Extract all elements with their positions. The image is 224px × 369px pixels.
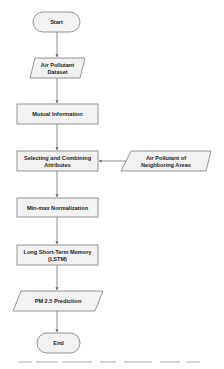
node-selecting-combining: Selecting and Combining Attributes xyxy=(17,151,98,171)
node-dataset: Air Pollutant Dataset xyxy=(30,58,85,78)
node-pm25-label: PM 2.5 Prediction xyxy=(35,298,82,304)
node-select-line2: Attributes xyxy=(44,162,70,168)
node-dataset-line1: Air Pollutant xyxy=(41,62,74,68)
node-pm25-prediction: PM 2.5 Prediction xyxy=(13,291,103,311)
cropped-caption xyxy=(18,361,200,363)
node-neighbor-line1: Air Pollutant of xyxy=(146,155,186,161)
node-neighbor-line2: Neighboring Areas xyxy=(141,162,191,168)
node-start-label: Start xyxy=(50,19,63,25)
node-dataset-line2: Dataset xyxy=(47,69,67,75)
node-mutual-label: Mutual Information xyxy=(32,111,83,117)
node-lstm: Long Short-Term Memory (LSTM) xyxy=(17,245,98,265)
flowchart: Start Air Pollutant Dataset Mutual Infor… xyxy=(0,0,224,369)
node-lstm-line2: (LSTM) xyxy=(48,256,67,262)
node-start: Start xyxy=(33,12,80,32)
node-lstm-line1: Long Short-Term Memory xyxy=(24,249,93,255)
node-mutual-information: Mutual Information xyxy=(17,104,98,124)
node-end-label: End xyxy=(53,340,64,346)
node-minmax-normalization: Min-max Normalization xyxy=(17,198,98,217)
node-minmax-label: Min-max Normalization xyxy=(27,205,89,211)
node-end: End xyxy=(37,333,80,353)
node-select-line1: Selecting and Combining xyxy=(24,155,92,161)
node-neighboring-areas: Air Pollutant of Neighboring Areas xyxy=(121,151,211,171)
